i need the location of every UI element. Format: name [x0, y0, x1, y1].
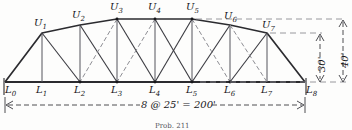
node-label-L4: L4: [149, 84, 160, 98]
node-label-U7: U7: [262, 19, 275, 33]
diagonal-U2-L3: [80, 25, 117, 82]
node-label-U2: U2: [72, 9, 85, 23]
node-label-L6: L6: [224, 84, 235, 98]
node-label-L1: L1: [36, 84, 47, 98]
figure-caption: Prob. 211: [155, 122, 190, 130]
counter-U6-L7: [230, 25, 267, 82]
height-inner-label: 30': [316, 57, 327, 72]
node-label-L7: L7: [261, 84, 272, 98]
node-label-L5: L5: [186, 84, 197, 98]
span-dimension-label: 8 @ 25' = 200': [141, 99, 216, 110]
node-label-U1: U1: [34, 17, 47, 31]
node-label-L2: L2: [74, 84, 85, 98]
node-label-U3: U3: [110, 1, 123, 15]
truss-figure: U1 U2 U3 U4 U5 U6 U7 L0 L1 L2 L3 L4 L5 L…: [0, 0, 352, 130]
dimension-40: [339, 20, 347, 82]
node-label-U4: U4: [148, 1, 161, 15]
node-label-U6: U6: [224, 10, 237, 24]
diagonal-U7-L6: [230, 33, 267, 82]
vertical-members: [42, 19, 267, 82]
truss-drawing: [0, 0, 352, 130]
node-label-L3: L3: [111, 84, 122, 98]
height-center-label: 40': [339, 53, 350, 68]
node-label-U5: U5: [186, 1, 199, 15]
node-label-L0: L0: [5, 84, 16, 98]
diagonal-U1-L2: [42, 33, 80, 82]
node-label-L8: L8: [306, 84, 317, 98]
